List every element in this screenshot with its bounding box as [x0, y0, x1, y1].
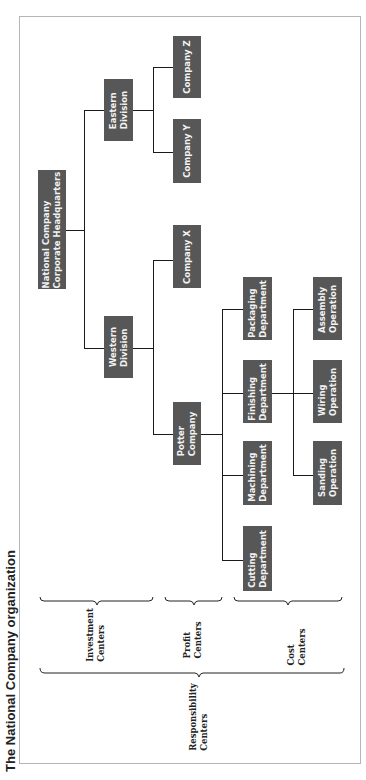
braces [0, 0, 366, 780]
brace-responsibility [40, 668, 344, 677]
label-cost-centers: CostCenters [286, 629, 308, 666]
brace-cost [234, 597, 342, 605]
brace-investment [40, 597, 153, 605]
brace-profit [165, 597, 222, 605]
label-responsibility-centers: ResponsibilityCenters [188, 683, 210, 751]
label-profit-centers: ProfitCenters [182, 622, 204, 659]
label-investment-centers: InvestmentCenters [85, 608, 107, 662]
